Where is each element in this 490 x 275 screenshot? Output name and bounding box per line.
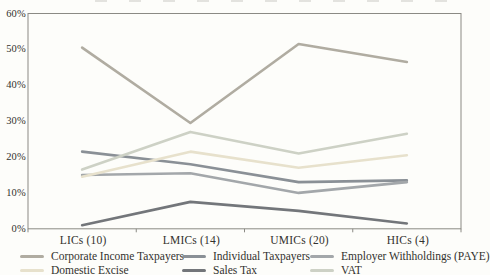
y-tick-label: 50% xyxy=(0,44,26,54)
series-line-5 xyxy=(82,132,407,170)
series-line-1 xyxy=(82,152,407,183)
x-axis-label: HICs (4) xyxy=(387,234,429,246)
legend-swatch xyxy=(310,269,334,272)
legend-swatch xyxy=(182,255,206,258)
legend-item: Employer Withholdings (PAYE) xyxy=(310,250,490,262)
y-tick-label: 40% xyxy=(0,80,26,90)
legend-swatch xyxy=(20,255,44,258)
legend-item: Domestic Excise xyxy=(20,264,129,275)
legend-label: Sales Tax xyxy=(213,264,257,275)
legend-swatch xyxy=(182,269,206,272)
y-tick-label: 60% xyxy=(0,9,26,19)
legend-item: Corporate Income Taxpayers xyxy=(20,250,184,262)
y-tick-label: 20% xyxy=(0,152,26,162)
legend-label: Individual Taxpayers xyxy=(213,250,310,262)
y-tick-label: 30% xyxy=(0,116,26,126)
legend-swatch xyxy=(310,255,334,258)
plot-border xyxy=(28,14,461,229)
series-line-2 xyxy=(82,173,407,193)
y-tick-label: 0% xyxy=(0,224,26,234)
legend-label: Employer Withholdings (PAYE) xyxy=(341,250,490,262)
x-axis-label: UMICs (20) xyxy=(270,234,329,246)
y-tick-label: 10% xyxy=(0,188,26,198)
legend-label: Corporate Income Taxpayers xyxy=(51,250,184,262)
x-axis-label: LMICs (14) xyxy=(163,234,220,246)
legend-item: Individual Taxpayers xyxy=(182,250,310,262)
x-axis-label: LICs (10) xyxy=(60,234,107,246)
chart-plot-area xyxy=(0,0,469,248)
series-line-0 xyxy=(82,44,407,123)
legend-label: VAT xyxy=(341,264,362,275)
legend-item: Sales Tax xyxy=(182,264,257,275)
legend-swatch xyxy=(20,269,44,272)
legend-label: Domestic Excise xyxy=(51,264,129,275)
legend-item: VAT xyxy=(310,264,362,275)
series-line-4 xyxy=(82,202,407,225)
